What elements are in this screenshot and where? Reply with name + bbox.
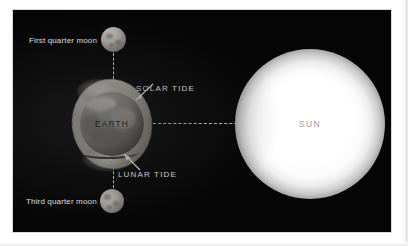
diagram-plate: SUN EARTH (13, 10, 391, 232)
lunar-tide-leader-arrow (119, 152, 143, 172)
label-solar-tide: SOLAR TIDE (136, 84, 195, 93)
label-third-quarter-moon: Third quarter moon (26, 197, 97, 206)
moon-crater (109, 43, 114, 47)
moon-crater (104, 194, 111, 200)
dashed-line-moon-first-quarter-to-earth (113, 53, 114, 79)
moon-crater (113, 201, 119, 206)
page-edge-shading-right (403, 0, 408, 246)
page-edge-shading-bottom (0, 242, 408, 246)
moon-third-quarter (100, 189, 124, 213)
sun-label: SUN (299, 119, 321, 129)
earth-label: EARTH (95, 119, 129, 129)
moon-crater (115, 40, 121, 45)
figure-root: SUN EARTH (0, 0, 408, 246)
moon-crater (106, 33, 113, 39)
moon-first-quarter (101, 27, 126, 52)
moon-crater (107, 205, 112, 209)
label-first-quarter-moon: First quarter moon (29, 36, 97, 45)
label-lunar-tide: LUNAR TIDE (118, 170, 177, 179)
